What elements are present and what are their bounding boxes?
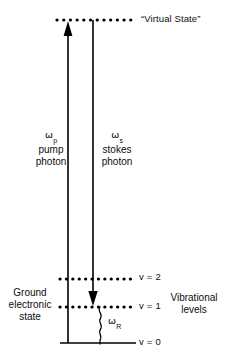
pump-label-line-2: photon	[22, 156, 80, 168]
vibrational-level-1-label: v = 1	[139, 300, 161, 312]
stokes-photon-arrowhead	[88, 291, 97, 306]
ground-state-line-3: state	[2, 311, 58, 323]
vibrational-levels-line-2: levels	[163, 304, 225, 316]
omega-symbol: ω	[108, 315, 116, 326]
ground-electronic-state-label: Ground electronic state	[2, 287, 58, 324]
raman-shift-label: ωR	[108, 315, 121, 330]
stokes-label-line-2: photon	[88, 156, 146, 168]
omega-subscript: R	[116, 323, 121, 330]
stokes-omega-symbol-line: ωs	[88, 129, 146, 144]
omega-symbol: ω	[111, 129, 119, 140]
vibrational-level-2-label: v = 2	[139, 271, 161, 283]
vibrational-levels-line-1: Vibrational	[163, 292, 225, 304]
vibrational-levels-label: Vibrational levels	[163, 292, 225, 316]
omega-subscript: s	[120, 137, 124, 144]
stokes-label-line-1: stokes	[88, 144, 146, 156]
virtual-state-caption: “Virtual State”	[141, 13, 200, 25]
omega-symbol: ω	[45, 129, 53, 140]
pump-omega-symbol-line: ωp	[22, 129, 80, 144]
pump-photon-arrowhead	[64, 21, 73, 36]
ground-state-line-2: electronic	[2, 299, 58, 311]
ground-state-line-1: Ground	[2, 287, 58, 299]
vibrational-level-0-label: v = 0	[139, 336, 161, 348]
raman-energy-level-diagram: “Virtual State” ωp pump photon ωs stokes…	[0, 0, 226, 358]
stokes-photon-label: ωs stokes photon	[88, 129, 146, 168]
pump-label-line-1: pump	[22, 144, 80, 156]
raman-shift-wavy-line	[99, 307, 101, 344]
omega-subscript: p	[53, 137, 57, 144]
pump-photon-label: ωp pump photon	[22, 129, 80, 168]
